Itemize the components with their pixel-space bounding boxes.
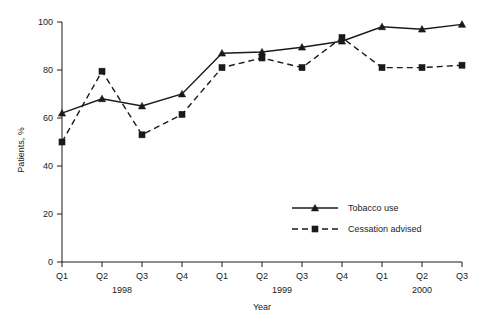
year-label: 1999 [272,285,292,295]
x-tick-label: Q4 [176,271,188,281]
y-tick-label: 80 [43,65,53,75]
legend-label: Cessation advised [348,224,422,234]
legend-label: Tobacco use [348,203,399,213]
data-point-square [139,132,145,138]
data-point-square [299,65,305,71]
series-line [62,24,462,113]
data-point-square [379,65,385,71]
x-tick-label: Q3 [136,271,148,281]
year-label: 2000 [412,285,432,295]
x-axis-title: Year [253,302,271,312]
data-point-square [219,65,225,71]
y-tick-label: 20 [43,209,53,219]
year-group-labels: 199819992000 [112,285,432,295]
data-point-square [459,62,465,68]
y-axis-ticks: 020406080100 [38,17,62,267]
y-tick-label: 40 [43,161,53,171]
x-tick-label: Q2 [416,271,428,281]
x-tick-label: Q2 [256,271,268,281]
x-tick-label: Q1 [216,271,228,281]
data-point-square [59,139,65,145]
data-point-square [259,55,265,61]
data-point-square [419,65,425,71]
year-label: 1998 [112,285,132,295]
x-axis-ticks: Q1Q2Q3Q4Q1Q2Q3Q4Q1Q2Q3 [56,262,468,281]
x-tick-label: Q1 [56,271,68,281]
chart-legend: Tobacco useCessation advised [292,203,422,234]
x-tick-label: Q2 [96,271,108,281]
series-tobacco-use [58,21,465,116]
x-tick-label: Q3 [456,271,468,281]
x-tick-label: Q4 [336,271,348,281]
data-point-triangle [98,95,105,101]
x-tick-label: Q1 [376,271,388,281]
y-tick-label: 0 [48,257,53,267]
line-chart: 020406080100 Q1Q2Q3Q4Q1Q2Q3Q4Q1Q2Q3 Pati… [0,0,481,325]
y-tick-label: 100 [38,17,53,27]
data-point-square [179,111,185,117]
y-tick-label: 60 [43,113,53,123]
data-point-square [99,68,105,74]
x-tick-label: Q3 [296,271,308,281]
data-point-square [339,35,345,41]
data-point-square [312,226,318,232]
chart-container: 020406080100 Q1Q2Q3Q4Q1Q2Q3Q4Q1Q2Q3 Pati… [0,0,481,325]
series-layer [58,21,465,145]
y-axis-title: Patients, % [16,127,26,173]
